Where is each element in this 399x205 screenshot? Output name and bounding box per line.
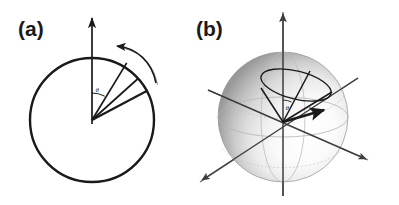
figure-root: (a) θ (b) <box>0 0 399 205</box>
panel-b-label: (b) <box>196 17 223 40</box>
panel-a-angle-label: θ <box>96 86 100 94</box>
panel-a-label: (a) <box>18 17 44 40</box>
panel-b-angle-label: θ <box>286 104 290 112</box>
